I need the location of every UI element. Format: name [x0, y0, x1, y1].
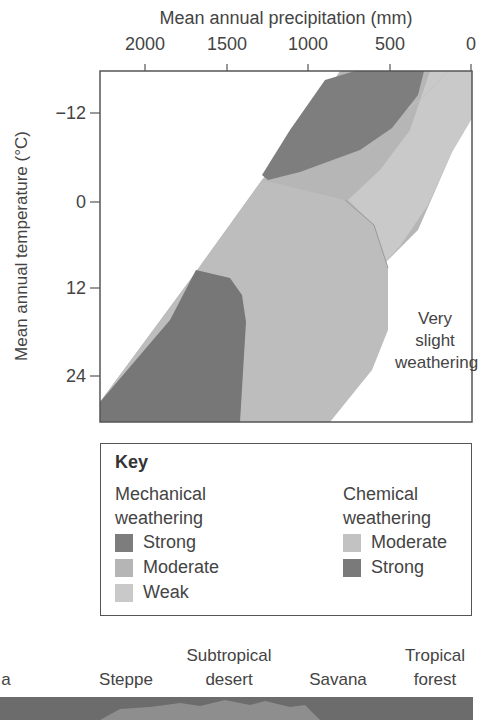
swatch-chemical-strong	[343, 559, 361, 577]
biome-line: Subtropical	[186, 644, 271, 668]
terrain-profile	[0, 697, 473, 720]
legend-heading: weathering	[343, 506, 447, 530]
legend-label: Strong	[143, 532, 196, 553]
legend-item: Strong	[115, 530, 219, 555]
legend-heading: weathering	[115, 506, 219, 530]
legend-group-mechanical: Mechanical weathering Strong Moderate We…	[115, 482, 219, 605]
legend-item: Strong	[343, 555, 447, 580]
legend-label: Strong	[371, 557, 424, 578]
biome-label: Subtropical desert	[186, 644, 271, 692]
biome-label: a	[1, 644, 10, 692]
terrain-strip	[0, 697, 473, 720]
legend-title: Key	[115, 452, 148, 473]
legend: Key Mechanical weathering Strong Moderat…	[100, 443, 472, 616]
biome-label: Savana	[309, 644, 367, 692]
legend-heading: Chemical	[343, 482, 447, 506]
legend-group-chemical: Chemical weathering Moderate Strong	[343, 482, 447, 580]
legend-label: Weak	[143, 582, 189, 603]
swatch-mechanical-weak	[115, 584, 133, 602]
annotation-line: slight	[395, 330, 475, 352]
legend-item: Moderate	[343, 530, 447, 555]
region-chemical-strong	[100, 270, 246, 422]
legend-item: Moderate	[115, 555, 219, 580]
biome-label: Steppe	[99, 644, 153, 692]
very-slight-weathering-label: Very slight weathering	[395, 308, 475, 374]
swatch-chemical-moderate	[343, 534, 361, 552]
biome-line: Tropical	[405, 644, 465, 668]
swatch-mechanical-strong	[115, 534, 133, 552]
swatch-mechanical-moderate	[115, 559, 133, 577]
biome-label: Tropical forest	[405, 644, 465, 692]
weathering-plot	[0, 0, 481, 440]
legend-label: Moderate	[371, 532, 447, 553]
biome-line	[309, 644, 367, 668]
legend-heading: Mechanical	[115, 482, 219, 506]
biome-line: Steppe	[99, 668, 153, 692]
legend-label: Moderate	[143, 557, 219, 578]
biome-line: desert	[186, 668, 271, 692]
biome-line: Savana	[309, 668, 367, 692]
biome-line	[1, 644, 10, 668]
legend-item: Weak	[115, 580, 219, 605]
biome-line	[99, 644, 153, 668]
biome-line: forest	[405, 668, 465, 692]
annotation-line: weathering	[395, 352, 475, 374]
annotation-line: Very	[395, 308, 475, 330]
biome-line: a	[1, 668, 10, 692]
